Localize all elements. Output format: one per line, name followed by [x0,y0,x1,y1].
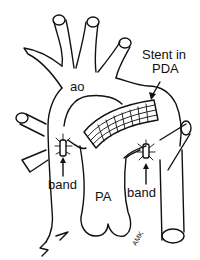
band-right-label: band [127,186,156,199]
lower-left-vessel-end [40,232,68,256]
aorta-label: ao [70,80,84,93]
band-left-label: band [48,178,77,191]
ductal-stent [84,100,158,148]
heart-vessels-drawing [0,0,200,260]
right-tube-vessel [160,121,191,243]
pulmonary-artery-label: PA [95,190,111,203]
left-upper-vessel [16,113,48,172]
stent-label-line1: Stent in [142,48,186,61]
stent-label-line2: PDA [152,62,179,75]
left-pa-band [55,134,72,156]
